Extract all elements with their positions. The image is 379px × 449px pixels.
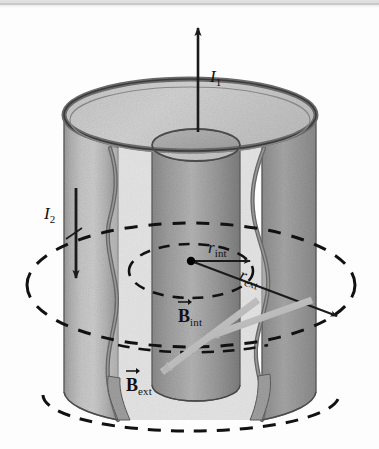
vector-arrow-icon bbox=[178, 298, 192, 305]
label-current-outer-subscript: 2 bbox=[50, 213, 56, 225]
coaxial-cable-diagram bbox=[0, 0, 379, 449]
vector-arrow-icon bbox=[126, 367, 140, 374]
figure-root: I1 I2 rint rext B int B ext bbox=[0, 0, 379, 449]
core-body bbox=[152, 145, 240, 401]
label-field-internal-subscript: int bbox=[190, 316, 202, 328]
label-field-external-subscript: ext bbox=[138, 385, 152, 397]
label-field-external: B ext bbox=[126, 376, 152, 394]
axis-center-dot bbox=[187, 257, 195, 265]
label-radius-internal-base: r bbox=[208, 238, 215, 257]
label-current-outer: I2 bbox=[44, 205, 55, 222]
label-current-inner-subscript: 1 bbox=[216, 76, 222, 88]
label-radius-internal: rint bbox=[208, 239, 227, 256]
label-current-inner: I1 bbox=[210, 68, 221, 85]
label-radius-internal-subscript: int bbox=[215, 247, 227, 259]
label-field-internal-base: B bbox=[178, 306, 190, 326]
label-field-external-base: B bbox=[126, 375, 138, 395]
label-field-internal: B int bbox=[178, 307, 202, 325]
label-field-internal-vector-group: B bbox=[178, 307, 190, 325]
label-current-inner-base: I bbox=[210, 67, 216, 86]
inner-conductor-core bbox=[152, 129, 240, 401]
label-current-outer-base: I bbox=[44, 204, 50, 223]
label-field-external-vector-group: B bbox=[126, 376, 138, 394]
